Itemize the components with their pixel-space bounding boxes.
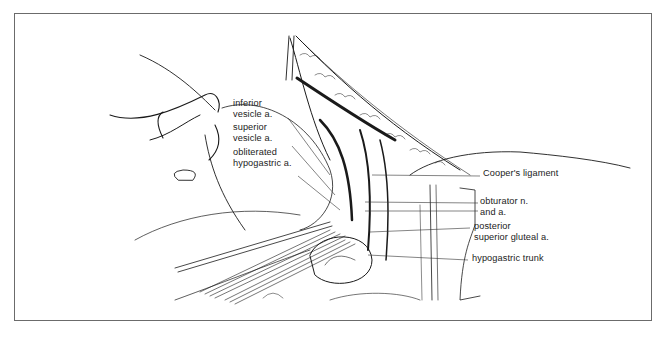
label-obliterated-hypogastric-artery: obliterated hypogastric a. — [233, 147, 292, 169]
label-posterior-superior-gluteal-artery: posterior superior gluteal a. — [474, 221, 549, 243]
label-coopers-ligament: Cooper's ligament — [483, 168, 558, 179]
label-line: obliterated — [233, 147, 292, 158]
label-inferior-vesicle-artery: inferior vesicle a. — [233, 98, 272, 120]
label-superior-vesicle-artery: superior vesicle a. — [233, 122, 272, 144]
label-line: and a. — [480, 207, 528, 218]
label-line: vesicle a. — [233, 133, 272, 144]
label-line: vesicle a. — [233, 109, 272, 120]
label-obturator-nerve-artery: obturator n. and a. — [480, 196, 528, 218]
label-line: posterior — [474, 221, 549, 232]
label-line: inferior — [233, 98, 272, 109]
surgical-illustration — [0, 0, 669, 337]
label-line: Cooper's ligament — [483, 168, 558, 179]
label-line: hypogastric a. — [233, 158, 292, 169]
label-line: superior gluteal a. — [474, 232, 549, 243]
label-line: obturator n. — [480, 196, 528, 207]
label-hypogastric-trunk: hypogastric trunk — [472, 253, 544, 264]
label-line: superior — [233, 122, 272, 133]
label-line: hypogastric trunk — [472, 253, 544, 264]
